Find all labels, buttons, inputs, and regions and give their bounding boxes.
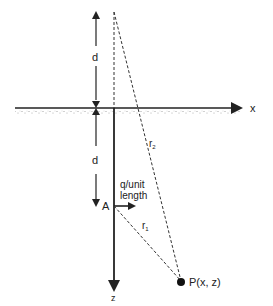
upper-d-label: d: [92, 51, 98, 63]
r1-label: r1: [142, 220, 149, 232]
point-p-label: P(x, z): [189, 276, 221, 288]
right-arrow-icon: [128, 202, 136, 210]
z-axis-label: z: [111, 293, 116, 303]
r2-label: r2: [149, 138, 156, 150]
down-arrow-icon: [92, 101, 100, 108]
line-charge-label-line1: q/unit: [120, 179, 145, 190]
line-charge-label-line2: length: [120, 190, 147, 201]
z-axis-arrow-icon: [108, 280, 120, 292]
ground-surface-texture: [15, 109, 240, 114]
z-axis: [108, 108, 120, 292]
point-a-label: A: [102, 200, 110, 212]
r1-dashed-line: [114, 206, 181, 281]
lower-d-label: d: [92, 154, 98, 166]
x-axis-label: x: [250, 102, 256, 114]
up-arrow-icon: [92, 11, 100, 19]
point-p-marker: [177, 278, 185, 286]
line-charge-image-diagram: x z d d A q/unit length r2 r1 P(x, z): [0, 0, 273, 306]
line-charge-arrow: [114, 202, 136, 210]
r2-dashed-line: [114, 12, 181, 281]
down-arrow-icon: [92, 199, 100, 207]
